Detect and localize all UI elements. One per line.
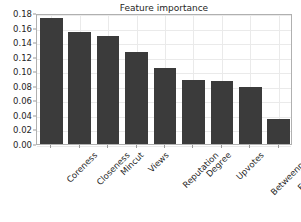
x-tick-mark: [192, 145, 193, 148]
y-tick-label: 0.10: [13, 68, 32, 77]
bar: [125, 52, 148, 144]
bar: [211, 81, 234, 144]
y-tick-label: 0.02: [13, 126, 32, 135]
x-tick-label: Views: [146, 150, 170, 174]
y-tick-label: 0.08: [13, 82, 32, 91]
y-tick-label: 0.12: [13, 53, 32, 62]
bar: [154, 68, 177, 144]
y-tick-label: 0.06: [13, 97, 32, 106]
chart-title: Feature importance: [36, 3, 292, 14]
x-tick-mark: [249, 145, 250, 148]
x-tick-mark: [107, 145, 108, 148]
plot-area: [36, 14, 292, 145]
bar: [239, 87, 262, 144]
y-tick-label: 0.16: [13, 24, 32, 33]
y-tick-label: 0.18: [13, 10, 32, 19]
x-tick-label: Upvotes: [234, 150, 266, 182]
x-tick-mark: [136, 145, 137, 148]
bar-series: [37, 15, 291, 144]
bar: [68, 32, 91, 144]
bar: [97, 36, 120, 144]
x-tick-mark: [79, 145, 80, 148]
x-tick-mark: [50, 145, 51, 148]
bar: [40, 18, 63, 144]
x-tick-mark: [221, 145, 222, 148]
x-tick-mark: [164, 145, 165, 148]
y-tick-label: 0.00: [13, 141, 32, 150]
bar: [182, 80, 205, 144]
y-axis: 0.000.020.040.060.080.100.120.140.160.18: [0, 14, 36, 145]
x-tick-label: Betweenness: [269, 150, 301, 197]
x-axis: CorenessClosenessMincutViewsReputationDe…: [36, 145, 292, 222]
y-tick-label: 0.04: [13, 111, 32, 120]
x-tick-mark: [278, 145, 279, 148]
bar: [267, 119, 290, 144]
y-tick-label: 0.14: [13, 39, 32, 48]
feature-importance-chart: Feature importance 0.000.020.040.060.080…: [0, 0, 301, 222]
